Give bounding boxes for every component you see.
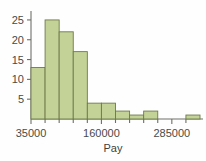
histogram-bar xyxy=(73,52,87,119)
bars xyxy=(31,20,200,119)
histogram-bar xyxy=(45,20,59,119)
x-axis-ticks: 35000160000285000 xyxy=(16,119,190,139)
x-tick-label: 160000 xyxy=(83,127,120,139)
x-tick-label: 35000 xyxy=(16,127,47,139)
y-tick-label: 20 xyxy=(12,34,24,46)
y-tick-label: 10 xyxy=(12,73,24,85)
x-tick-label: 285000 xyxy=(153,127,190,139)
y-tick-label: 15 xyxy=(12,54,24,66)
histogram-bar xyxy=(59,32,73,119)
chart-canvas: 510152025 35000160000285000 Pay xyxy=(0,0,206,161)
histogram-bar xyxy=(144,111,158,119)
histogram-bar xyxy=(87,103,101,119)
y-tick-label: 5 xyxy=(18,93,24,105)
y-axis-ticks: 510152025 xyxy=(12,14,31,105)
histogram-bar xyxy=(31,67,45,119)
histogram-bar xyxy=(186,115,200,119)
histogram-bar xyxy=(101,103,115,119)
x-axis-title: Pay xyxy=(104,142,123,154)
histogram-bar xyxy=(130,115,144,119)
histogram-chart: 510152025 35000160000285000 Pay xyxy=(0,0,206,161)
histogram-bar xyxy=(116,111,130,119)
y-tick-label: 25 xyxy=(12,14,24,26)
